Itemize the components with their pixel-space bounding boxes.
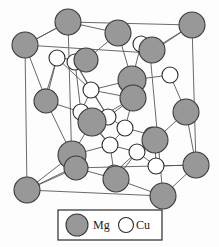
mg-atom bbox=[120, 85, 146, 111]
legend-label-cu: Cu bbox=[136, 218, 150, 232]
mg-atom bbox=[74, 48, 98, 72]
mg-atom bbox=[14, 177, 40, 203]
legend: Mg Cu bbox=[58, 210, 162, 240]
mg-atom bbox=[103, 166, 129, 192]
unit-cell-edge bbox=[192, 25, 196, 165]
cu-atom bbox=[49, 50, 65, 66]
mg-atom bbox=[12, 32, 38, 58]
mg-atom bbox=[105, 20, 131, 46]
cu-atom bbox=[162, 67, 178, 83]
unit-cell-edge bbox=[68, 22, 192, 25]
cu-atom bbox=[148, 158, 164, 174]
mg-atom bbox=[179, 12, 205, 38]
unit-cell-edge bbox=[150, 53, 163, 196]
mg-atom bbox=[55, 9, 81, 35]
mg-atom bbox=[78, 108, 106, 136]
mg-atom bbox=[139, 37, 165, 63]
mg-atom bbox=[173, 99, 199, 125]
mg-atom bbox=[183, 152, 209, 178]
cu-atom bbox=[102, 137, 118, 153]
cu-atom bbox=[129, 144, 145, 160]
mg-atom bbox=[142, 127, 168, 153]
crystal-structure-diagram: Mg Cu bbox=[0, 0, 219, 247]
mg-atom bbox=[64, 156, 88, 180]
cu-atom-swatch bbox=[119, 218, 134, 233]
mg-atom-swatch bbox=[66, 214, 88, 236]
legend-label-mg: Mg bbox=[93, 218, 110, 232]
mg-atom bbox=[34, 89, 58, 113]
crystal-structure-figure: Mg Cu bbox=[0, 0, 219, 247]
cu-atom bbox=[83, 82, 99, 98]
unit-cell-edge bbox=[25, 45, 27, 190]
mg-atom bbox=[150, 183, 176, 209]
cu-atom bbox=[117, 120, 133, 136]
unit-cell-edge bbox=[27, 190, 163, 196]
